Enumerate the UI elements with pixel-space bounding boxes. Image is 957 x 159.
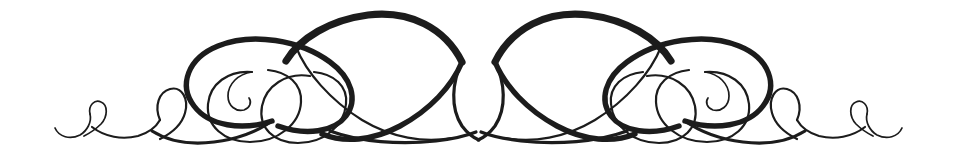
small-loop-right	[851, 101, 873, 136]
spiral-left	[228, 72, 252, 110]
mid-loop-right	[771, 89, 800, 139]
small-loop-left	[84, 101, 106, 136]
flourish-left-half	[55, 14, 476, 143]
tail-left	[55, 114, 90, 137]
center-vesica-group	[454, 62, 504, 140]
outer-oval-left	[186, 39, 352, 131]
flourish-ornament	[0, 0, 957, 159]
grand-arc-left	[286, 14, 462, 62]
mid-loop-left	[157, 89, 186, 139]
tail-right	[867, 114, 902, 137]
center-vesica-left-side	[454, 62, 479, 140]
companion-arc-left	[296, 47, 452, 140]
ornament-canvas: Symmetrical calligraphic flourish orname…	[0, 0, 957, 159]
outer-oval-right	[605, 39, 771, 131]
grand-arc-right	[495, 14, 671, 62]
companion-arc-right	[505, 47, 661, 140]
flourish-right-half	[481, 14, 902, 143]
spiral-right	[705, 72, 729, 110]
